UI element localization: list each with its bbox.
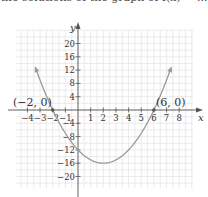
y-tick-label: −12	[57, 145, 75, 155]
x-tick-label: 7	[164, 113, 169, 123]
x-tick-label: 1	[88, 113, 93, 123]
y-tick-label: −16	[57, 158, 75, 168]
y-axis-label: y	[69, 22, 76, 33]
axes	[8, 22, 203, 197]
x-tick-label: 8	[176, 113, 181, 123]
x-tick-label: 2	[101, 113, 106, 123]
y-tick-label: 8	[70, 78, 75, 88]
y-tick-label: 20	[64, 39, 75, 49]
y-tick-label: 12	[64, 65, 75, 75]
parabola-chart: −4−3−2−11234567820161284−4−8−12−16−20 x …	[0, 0, 208, 197]
y-tick-label: 4	[70, 92, 75, 102]
point-label-right: (6, 0)	[156, 96, 186, 109]
x-tick-label: −3	[34, 113, 47, 123]
y-tick-label: −8	[62, 132, 75, 142]
y-tick-label: −4	[62, 118, 75, 128]
x-tick-label: 4	[126, 113, 131, 123]
x-axis-label: x	[198, 112, 204, 123]
x-tick-label: 5	[139, 113, 144, 123]
y-tick-label: 16	[64, 52, 75, 62]
x-tick-label: −4	[21, 113, 34, 123]
point-label-left: (−2, 0)	[13, 96, 52, 109]
y-tick-label: −20	[57, 172, 75, 182]
x-tick-label: 3	[113, 113, 118, 123]
